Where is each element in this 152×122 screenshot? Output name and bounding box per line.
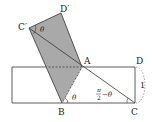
label-c: C (131, 107, 138, 117)
side-length-label: 1 (140, 81, 145, 90)
label-d-prime: D′ (60, 4, 69, 14)
angle-label-c-den: 2 (97, 94, 101, 101)
label-d: D (136, 56, 143, 66)
right-angle-mark (84, 70, 87, 75)
label-a: A (83, 56, 91, 66)
angle-label-c-rest: −θ (102, 91, 113, 99)
label-b: B (58, 107, 65, 117)
label-c-prime: C′ (18, 22, 27, 32)
geometry-diagram: D′ C′ A D B C θ θ π 2 −θ 1 (0, 0, 152, 122)
folded-region (29, 13, 82, 103)
angle-arc-c (127, 98, 128, 103)
angle-label-b: θ (72, 94, 77, 102)
diagonal-cprime-c (29, 28, 135, 103)
angle-arc-b (65, 98, 68, 103)
